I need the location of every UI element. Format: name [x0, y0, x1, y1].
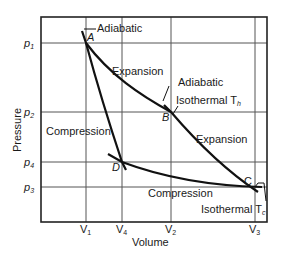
isothermal-cold-curve	[108, 154, 262, 187]
point-c-label: C	[244, 175, 252, 187]
y-tick-p4: p4	[23, 156, 34, 169]
y-axis-label: Pressure	[11, 108, 23, 152]
point-a-label: A	[86, 31, 94, 43]
y-tick-p2: p2	[23, 106, 34, 119]
annotation-adiabatic-mid: Adiabatic	[178, 76, 224, 88]
x-tick-v2: V2	[165, 223, 176, 236]
annotation-adiabatic-top: Adiabatic	[97, 22, 143, 34]
y-tick-p3: p3	[23, 181, 34, 194]
annotation-isothermal-hot: Isothermal Th	[176, 94, 241, 107]
point-b-label: B	[162, 111, 169, 123]
annotation-expansion-top: Expansion	[112, 65, 163, 77]
pv-diagram: p1 p2 p4 p3 V1 V4 V2 V3 Volume Pressure …	[0, 0, 283, 256]
annotation-compression-left: Compression	[46, 125, 111, 137]
point-d-label: D	[112, 161, 120, 173]
annotation-isothermal-cold: Isothermal Tc	[201, 203, 266, 216]
adiabatic-compression-curve	[82, 31, 126, 170]
x-tick-v1: V1	[80, 223, 91, 236]
annotation-expansion-right: Expansion	[196, 133, 247, 145]
isothermal-hot-curve	[86, 43, 171, 112]
x-tick-v4: V4	[116, 223, 127, 236]
x-axis-label: Volume	[132, 236, 169, 248]
y-tick-p1: p1	[23, 37, 34, 50]
annotation-compression-bottom: Compression	[148, 187, 213, 199]
x-tick-v3: V3	[249, 223, 260, 236]
